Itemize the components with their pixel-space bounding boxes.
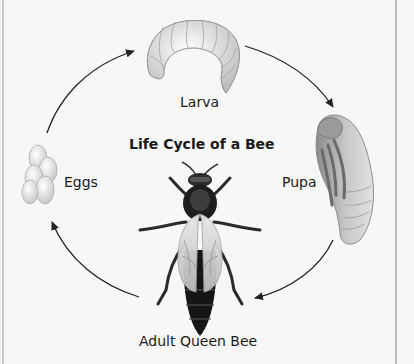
larva-icon: [147, 20, 239, 93]
eggs-icon: [22, 145, 57, 204]
arrow-adult-to-eggs: [52, 222, 139, 297]
arrow-pupa-to-adult: [255, 240, 333, 298]
pupa-label: Pupa: [282, 174, 317, 190]
diagram-title: Life Cycle of a Bee: [129, 136, 275, 152]
queen-bee-icon: [140, 162, 260, 336]
arrow-larva-to-pupa: [245, 46, 333, 107]
arrow-eggs-to-larva: [47, 51, 134, 133]
pupa-icon: [316, 115, 373, 244]
life-cycle-illustration: [0, 0, 414, 364]
adult-queen-bee-label: Adult Queen Bee: [139, 333, 257, 349]
larva-label: Larva: [180, 94, 219, 110]
eggs-label: Eggs: [64, 174, 98, 190]
